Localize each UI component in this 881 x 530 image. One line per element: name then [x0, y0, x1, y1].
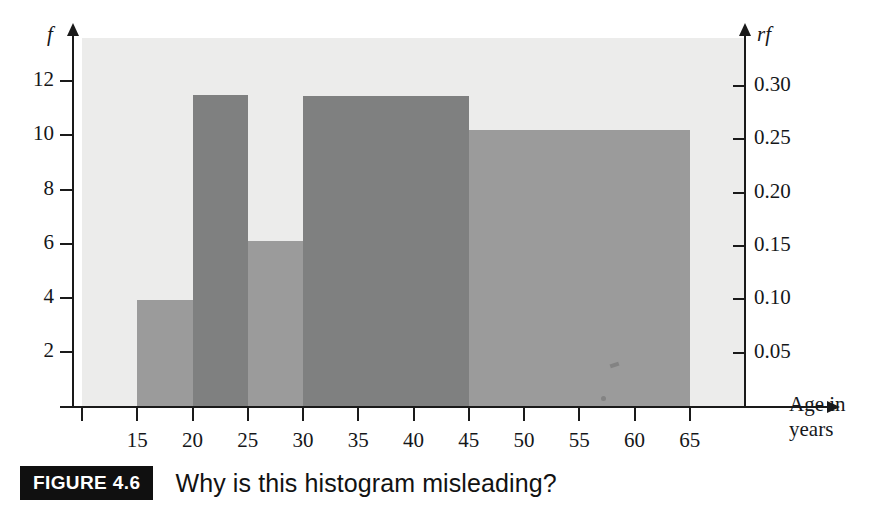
- histogram-bar: [303, 96, 469, 406]
- y-axis-left-title: f: [47, 22, 53, 47]
- x-axis-tick: [247, 407, 249, 421]
- x-axis-tick-label: 45: [446, 428, 492, 453]
- histogram-bar: [248, 241, 303, 406]
- y-axis-left-tick-label: 2: [8, 338, 54, 363]
- y-axis-right-tick: [733, 85, 746, 87]
- x-axis-tick: [81, 407, 83, 421]
- histogram-bar: [137, 300, 192, 406]
- y-axis-left-tick: [60, 297, 73, 299]
- y-axis-left-tick-label: 8: [8, 176, 54, 201]
- y-axis-right-tick-label: 0.15: [754, 232, 791, 257]
- x-axis-title: Age in years: [789, 392, 846, 442]
- x-axis-tick-label: 40: [391, 428, 437, 453]
- x-axis-tick-label: 65: [667, 428, 713, 453]
- x-axis-tick-label: 60: [612, 428, 658, 453]
- x-axis-tick-label: 15: [114, 428, 160, 453]
- y-axis-right-tick-label: 0.25: [754, 125, 791, 150]
- x-axis-title-line1: Age in: [789, 392, 846, 417]
- y-axis-right-tick: [733, 192, 746, 194]
- y-axis-right-tick: [733, 138, 746, 140]
- figure-caption-text: Why is this histogram misleading?: [175, 469, 556, 498]
- x-axis-tick-label: 35: [335, 428, 381, 453]
- x-axis-tick-label: 30: [280, 428, 326, 453]
- x-axis-tick: [413, 407, 415, 421]
- y-axis-left-arrow-icon: [67, 23, 79, 36]
- y-axis-left-tick: [60, 80, 73, 82]
- y-axis-left-tick-label: 10: [8, 121, 54, 146]
- y-axis-right-tick-label: 0.20: [754, 179, 791, 204]
- x-axis-tick-label: 20: [170, 428, 216, 453]
- y-axis-right-title: rf: [757, 22, 771, 47]
- y-axis-left-tick-label: 4: [8, 284, 54, 309]
- y-axis-left-tick-label: 12: [8, 67, 54, 92]
- histogram-bar: [193, 95, 248, 406]
- y-axis-right-tick: [733, 245, 746, 247]
- y-axis-right-tick-label: 0.10: [754, 285, 791, 310]
- x-axis-tick: [634, 407, 636, 421]
- y-axis-left-tick: [60, 134, 73, 136]
- x-axis-tick: [468, 407, 470, 421]
- figure-page: f rf Age in years 24681012 0.050.100.150…: [0, 0, 881, 530]
- y-axis-right-tick: [733, 352, 746, 354]
- x-axis-tick: [357, 407, 359, 421]
- x-axis-tick: [136, 407, 138, 421]
- y-axis-left-tick-label: 6: [8, 230, 54, 255]
- y-axis-right-tick-label: 0.30: [754, 72, 791, 97]
- x-axis-title-line2: years: [789, 417, 846, 442]
- histogram-bar: [469, 130, 690, 406]
- x-axis-line: [60, 406, 829, 408]
- y-axis-right-tick: [733, 298, 746, 300]
- plot-area: [82, 38, 745, 406]
- y-axis-left-tick: [60, 189, 73, 191]
- x-axis-tick-label: 55: [556, 428, 602, 453]
- x-axis-tick: [523, 407, 525, 421]
- x-axis-tick: [192, 407, 194, 421]
- print-speck: [601, 396, 606, 401]
- figure-caption: FIGURE 4.6 Why is this histogram mislead…: [20, 466, 557, 500]
- y-axis-right-arrow-icon: [739, 23, 751, 36]
- x-axis-tick-label: 25: [225, 428, 271, 453]
- y-axis-left-tick: [60, 351, 73, 353]
- x-axis-tick: [578, 407, 580, 421]
- x-axis-tick-label: 50: [501, 428, 547, 453]
- x-axis-tick: [689, 407, 691, 421]
- figure-number-badge: FIGURE 4.6: [20, 466, 153, 500]
- y-axis-right-tick-label: 0.05: [754, 339, 791, 364]
- y-axis-left-tick: [60, 243, 73, 245]
- x-axis-tick: [302, 407, 304, 421]
